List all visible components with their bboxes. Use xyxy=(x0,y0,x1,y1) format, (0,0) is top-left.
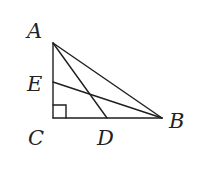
segment-ab xyxy=(53,43,162,118)
label-e: E xyxy=(26,72,42,96)
label-d: D xyxy=(96,126,114,150)
right-angle-marker xyxy=(53,105,66,118)
label-c: C xyxy=(28,126,44,150)
segment-ad xyxy=(53,43,107,118)
label-a: A xyxy=(25,19,42,43)
label-b: B xyxy=(168,109,184,133)
geometry-figure: A E C D B xyxy=(0,0,203,177)
segment-eb xyxy=(53,82,162,118)
